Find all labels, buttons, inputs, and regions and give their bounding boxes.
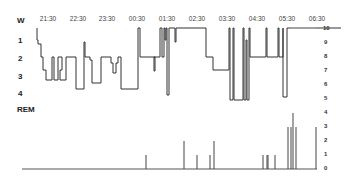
sleep-chart: W 1 2 3 4 REM 21:30 22:30 23:30 00:30 01… bbox=[0, 0, 345, 178]
hypnogram-line bbox=[37, 28, 341, 100]
rem-bars bbox=[146, 113, 316, 169]
hypnogram-plot bbox=[0, 0, 345, 178]
